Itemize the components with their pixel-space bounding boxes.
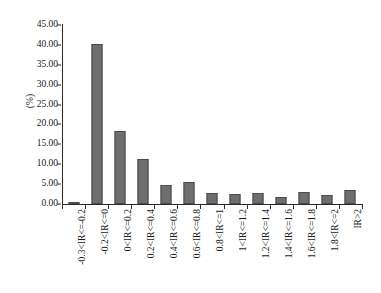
y-axis-tick-mark bbox=[57, 144, 61, 145]
y-axis-tick-mark bbox=[57, 184, 61, 185]
bar-slot bbox=[316, 25, 339, 204]
x-label-slot: 0.6<IR<=0.8 bbox=[177, 209, 200, 293]
x-axis-tick-mark bbox=[339, 205, 340, 209]
bar bbox=[160, 185, 171, 204]
bar-slot bbox=[131, 25, 154, 204]
y-axis-tick-mark bbox=[57, 44, 61, 45]
x-axis-tick-mark bbox=[316, 205, 317, 209]
x-label-slot: 1.6<IR<=1.8 bbox=[293, 209, 316, 293]
x-axis-tick-labels: -0.3<IR<=-0.2-0.2<IR<=00<IR<=0.20.2<IR<=… bbox=[62, 209, 362, 293]
bar-slot bbox=[224, 25, 247, 204]
x-label-slot: -0.2<IR<=0 bbox=[85, 209, 108, 293]
x-axis-tick-label: IR>2 bbox=[354, 209, 364, 229]
x-label-slot: 0<IR<=0.2 bbox=[108, 209, 131, 293]
y-axis-tick-labels: 0.005.0010.0015.0020.0025.0030.0035.0040… bbox=[0, 0, 58, 293]
x-label-slot: 1<IR<=1.2 bbox=[224, 209, 247, 293]
y-axis-tick-label: 15.00 bbox=[37, 140, 58, 150]
bar bbox=[276, 197, 287, 204]
x-axis-tick-mark bbox=[293, 205, 294, 209]
y-axis-tick-mark bbox=[57, 25, 61, 26]
bar-slot bbox=[154, 25, 177, 204]
x-axis-tick-mark bbox=[247, 205, 248, 209]
x-axis-tick-mark bbox=[270, 205, 271, 209]
bar-slot bbox=[177, 25, 200, 204]
y-axis-tick-mark bbox=[57, 164, 61, 165]
bar-slot bbox=[293, 25, 316, 204]
bar bbox=[183, 182, 194, 204]
x-axis-tick-mark bbox=[62, 205, 63, 209]
bar bbox=[230, 194, 241, 204]
x-label-slot: IR>2 bbox=[339, 209, 362, 293]
bar-slot bbox=[108, 25, 131, 204]
plot-area bbox=[62, 25, 362, 204]
bar bbox=[114, 131, 125, 204]
x-axis-tick-mark bbox=[200, 205, 201, 209]
x-label-slot: 0.2<IR<=0.4 bbox=[131, 209, 154, 293]
bar bbox=[345, 190, 356, 204]
x-axis-tick-mark bbox=[108, 205, 109, 209]
x-label-slot: -0.3<IR<=-0.2 bbox=[62, 209, 85, 293]
bar bbox=[253, 193, 264, 204]
x-axis-tick-mark bbox=[177, 205, 178, 209]
y-axis-tick-label: 45.00 bbox=[37, 20, 58, 30]
y-axis-tick-label: 30.00 bbox=[37, 80, 58, 90]
y-axis-tick-mark bbox=[57, 64, 61, 65]
x-axis-tick-mark bbox=[131, 205, 132, 209]
y-axis-tick-label: 0.00 bbox=[41, 199, 58, 209]
y-axis-tick-label: 5.00 bbox=[41, 179, 58, 189]
y-axis-tick-label: 35.00 bbox=[37, 60, 58, 70]
x-label-slot: 0.4<IR<=0.6 bbox=[154, 209, 177, 293]
y-axis-tick-mark bbox=[57, 84, 61, 85]
bar bbox=[137, 159, 148, 204]
x-label-slot: 1.4<IR<=1.6 bbox=[270, 209, 293, 293]
x-axis-line bbox=[62, 204, 363, 205]
x-label-slot: 1.2<IR<=1.4 bbox=[247, 209, 270, 293]
bar bbox=[206, 193, 217, 204]
bar-slot bbox=[270, 25, 293, 204]
bar-slot bbox=[85, 25, 108, 204]
x-axis-tick-mark bbox=[224, 205, 225, 209]
bar bbox=[91, 44, 102, 204]
bar-slot bbox=[200, 25, 223, 204]
y-axis-tick-mark bbox=[57, 204, 61, 205]
x-axis-tick-mark bbox=[154, 205, 155, 209]
y-axis-tick-label: 10.00 bbox=[37, 159, 58, 169]
y-axis-tick-mark bbox=[57, 124, 61, 125]
bar bbox=[322, 195, 333, 204]
bar-slot bbox=[62, 25, 85, 204]
x-axis-tick-mark bbox=[362, 205, 363, 209]
bar-chart: (%) 0.005.0010.0015.0020.0025.0030.0035.… bbox=[0, 0, 381, 293]
x-axis-tick-mark bbox=[85, 205, 86, 209]
bar bbox=[68, 202, 79, 204]
x-label-slot: 0.8<IR<=1 bbox=[200, 209, 223, 293]
bar-slot bbox=[247, 25, 270, 204]
x-label-slot: 1.8<IR<=2 bbox=[316, 209, 339, 293]
y-axis-tick-mark bbox=[57, 104, 61, 105]
y-axis-tick-label: 20.00 bbox=[37, 120, 58, 130]
y-axis-tick-label: 40.00 bbox=[37, 40, 58, 50]
y-axis-tick-label: 25.00 bbox=[37, 100, 58, 110]
bar-slot bbox=[339, 25, 362, 204]
bar bbox=[299, 192, 310, 204]
